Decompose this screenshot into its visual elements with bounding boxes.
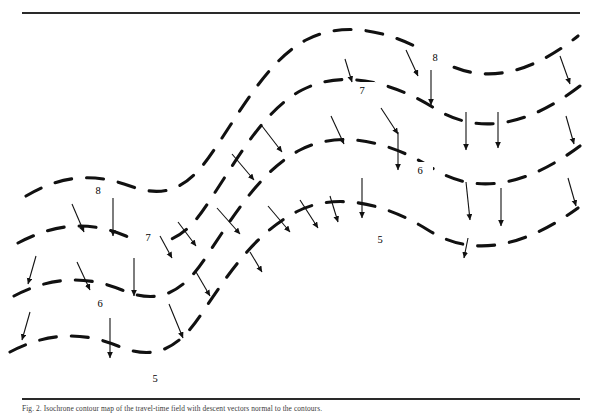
contour-label-8: 8: [95, 185, 100, 196]
gradient-arrow: [566, 116, 574, 144]
gradient-arrow: [300, 200, 318, 228]
gradient-arrow: [330, 196, 338, 222]
gradient-arrow: [232, 154, 254, 180]
gradient-arrow: [406, 50, 418, 76]
figure-caption: Fig. 2. Isochrone contour map of the tra…: [22, 404, 582, 416]
contour-line-level-5: [10, 202, 578, 353]
contour-plot-canvas: [0, 0, 603, 417]
gradient-arrow: [345, 59, 352, 82]
gradient-arrow-layer: [22, 50, 576, 358]
gradient-arrow: [560, 56, 570, 84]
contour-line-level-6: [14, 140, 580, 297]
gradient-arrow: [160, 236, 172, 258]
contour-label-7: 7: [359, 85, 364, 96]
figure-panel: 88776655 Fig. 2. Isochrone contour map o…: [0, 0, 603, 417]
contour-line-level-8: [26, 30, 578, 196]
contour-line-layer: [10, 30, 580, 386]
gradient-arrow: [196, 272, 210, 296]
gradient-arrow: [169, 304, 183, 338]
contour-label-5: 5: [152, 373, 157, 384]
gradient-arrow: [464, 238, 468, 258]
contour-label-6: 6: [417, 165, 422, 176]
gradient-arrow: [568, 178, 576, 206]
contour-label-8: 8: [432, 52, 437, 63]
bottom-horizontal-rule: [22, 398, 580, 400]
contour-label-7: 7: [145, 232, 150, 243]
contour-line-level-7: [18, 80, 580, 243]
contour-label-6: 6: [97, 298, 102, 309]
gradient-arrow: [250, 252, 262, 272]
gradient-arrow: [72, 204, 84, 232]
gradient-arrow: [466, 182, 470, 220]
gradient-arrow: [77, 262, 90, 290]
gradient-arrow: [262, 126, 282, 152]
gradient-arrow: [28, 256, 36, 284]
gradient-arrow: [381, 108, 398, 134]
contour-label-5: 5: [377, 234, 382, 245]
gradient-arrow: [22, 312, 30, 340]
